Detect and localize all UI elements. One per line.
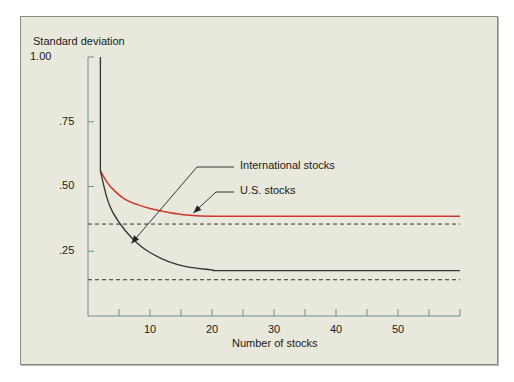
y-axis-label: Standard deviation [33,35,125,47]
y-tick-label-0.50: .50 [59,179,74,191]
annotation-us-stocks: U.S. stocks [240,184,296,196]
x-tick-label-20: 20 [206,323,218,335]
x-tick-label-40: 40 [330,323,342,335]
y-tick-label-0.75: .75 [59,115,74,127]
x-tick-label-50: 50 [392,323,404,335]
annotation-international-stocks: International stocks [240,159,335,171]
x-axis-label: Number of stocks [232,337,318,349]
y-tick-label-0.25: .25 [59,244,74,256]
y-tick-label-1.00: 1.00 [30,50,51,62]
x-tick-label-10: 10 [144,323,156,335]
x-tick-label-30: 30 [268,323,280,335]
